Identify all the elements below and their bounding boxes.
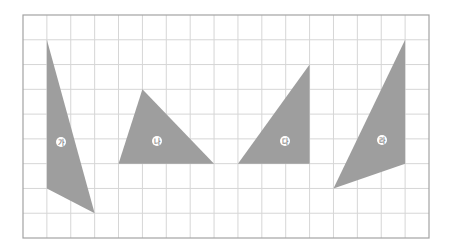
shapes-layer [47, 40, 405, 213]
label-text: 가 [58, 138, 65, 147]
label-text: 다 [282, 137, 289, 146]
label-text: 나 [154, 137, 161, 146]
triangle-grid-figure: 가나다라 [0, 0, 451, 251]
label-ra: 라 [377, 135, 387, 145]
label-ga: 가 [56, 137, 66, 147]
label-na: 나 [152, 136, 162, 146]
label-da: 다 [280, 136, 290, 146]
labels-layer: 가나다라 [56, 135, 387, 147]
label-text: 라 [379, 136, 386, 145]
